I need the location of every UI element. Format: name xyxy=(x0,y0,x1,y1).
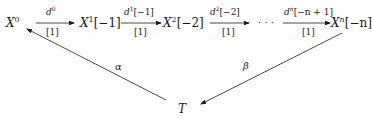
label-d1-top: d1[−1] xyxy=(124,8,154,17)
label-d2-bottom: [1] xyxy=(222,28,235,37)
x0-base: X xyxy=(6,16,15,30)
ellipsis: · · · xyxy=(258,17,274,28)
xn-shift: [−n] xyxy=(345,16,372,30)
node-x1: X1[−1] xyxy=(80,17,121,29)
node-dots: · · · xyxy=(258,17,274,29)
label-d1-bottom: [1] xyxy=(134,28,147,37)
node-x2: X2[−2] xyxy=(163,17,204,29)
label-beta: β xyxy=(243,61,249,70)
x1-base: X xyxy=(80,16,89,30)
label-dn-top: dn[−n + 1] xyxy=(284,8,333,17)
x0-sup: 0 xyxy=(15,15,20,24)
node-x0: X0 xyxy=(6,17,20,29)
label-d0-top: d0 xyxy=(46,8,56,17)
arrow-beta xyxy=(201,33,342,104)
dn-shift: [−n + 1] xyxy=(294,7,333,17)
node-xn: Xn[−n] xyxy=(331,17,372,29)
x1-shift: [−1] xyxy=(94,16,121,30)
node-t: T xyxy=(178,103,186,115)
d1-shift: [−1] xyxy=(134,7,154,17)
label-alpha: α xyxy=(115,62,122,71)
xn-base: X xyxy=(331,16,340,30)
x2-shift: [−2] xyxy=(177,16,204,30)
t-base: T xyxy=(178,102,186,116)
label-dn-bottom: [1] xyxy=(302,28,315,37)
d2-shift: [−2] xyxy=(220,7,240,17)
label-d2-top: d2[−2] xyxy=(210,8,240,17)
x2-base: X xyxy=(163,16,172,30)
d0-sup: 0 xyxy=(52,5,56,12)
arrow-alpha xyxy=(27,29,166,100)
label-d0-bottom: [1] xyxy=(46,28,59,37)
